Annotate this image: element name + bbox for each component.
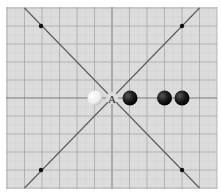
black-stone: [123, 91, 138, 106]
white-stone: [88, 91, 103, 106]
game-board: A: [0, 0, 221, 195]
black-stone: [157, 91, 172, 106]
marker-dot: [180, 168, 184, 172]
black-stone: [175, 91, 190, 106]
point-label-a: A: [108, 93, 116, 105]
marker-dot: [180, 24, 184, 28]
marker-dot: [39, 168, 43, 172]
marker-dot: [39, 24, 43, 28]
